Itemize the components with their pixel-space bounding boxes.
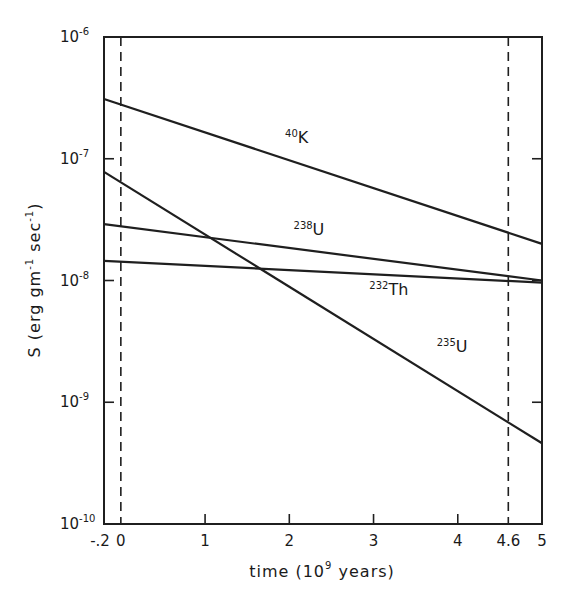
y-axis-label: S (erg gm-1 sec-1) [24, 203, 44, 358]
series-label-238U: 238U [294, 220, 325, 239]
series-labels: 40K238U232Th235U [285, 128, 467, 356]
y-tick-label: 10-7 [60, 148, 89, 168]
series-label-40K: 40K [285, 128, 309, 147]
y-tick-label: 10-9 [60, 391, 89, 411]
plot-border [104, 37, 542, 524]
x-tick-label: 1 [200, 532, 210, 550]
x-tick-label: 3 [369, 532, 379, 550]
series-lines [104, 99, 542, 443]
series-label-232Th: 232Th [369, 280, 408, 299]
x-axis-label: time (109 years) [249, 560, 395, 581]
x-tick-label: 5 [537, 532, 547, 550]
y-tick-label: 10-8 [60, 270, 89, 290]
x-tick-label: 2 [285, 532, 295, 550]
y-tick-label: 10-6 [60, 26, 89, 46]
x-tick-label: 4.6 [496, 532, 520, 550]
plot-frame [104, 37, 542, 524]
radiogenic-heat-chart: -.2012344.65 10-610-710-810-910-10 40K23… [0, 0, 573, 604]
reference-lines [121, 37, 508, 524]
x-axis-ticks: -.2012344.65 [90, 514, 547, 550]
x-tick-label: 0 [116, 532, 126, 550]
series-label-235U: 235U [437, 337, 468, 356]
y-tick-label: 10-10 [60, 513, 95, 533]
x-tick-label: 4 [453, 532, 463, 550]
series-line-235U [104, 172, 542, 443]
x-tick-label: -.2 [90, 532, 110, 550]
